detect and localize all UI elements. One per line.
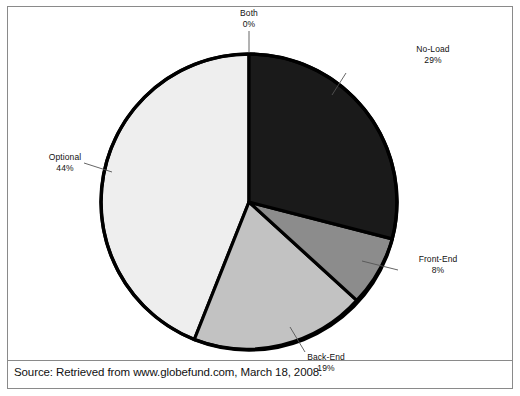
pie-label-front-end-name: Front-End	[398, 254, 478, 265]
pie-label-front-end-value: 8%	[398, 265, 478, 276]
pie-label-front-end: Front-End 8%	[398, 254, 478, 276]
pie-label-optional: Optional 44%	[28, 152, 102, 174]
pie-label-both-value: 0%	[212, 19, 286, 30]
pie-label-both-name: Both	[212, 8, 286, 19]
pie-label-both: Both 0%	[212, 8, 286, 30]
pie-label-no-load: No-Load 29%	[396, 44, 470, 66]
source-divider	[8, 360, 512, 361]
pie-chart-area: Both 0% No-Load 29% Front-End 8% Back-En…	[0, 0, 520, 396]
pie-label-optional-value: 44%	[28, 163, 102, 174]
source-note: Source: Retrieved from www.globefund.com…	[14, 366, 322, 378]
pie-label-no-load-value: 29%	[396, 55, 470, 66]
pie-label-back-end-name: Back-End	[286, 352, 366, 363]
pie-chart-figure: Both 0% No-Load 29% Front-End 8% Back-En…	[0, 0, 520, 396]
pie-label-no-load-name: No-Load	[396, 44, 470, 55]
pie-label-optional-name: Optional	[28, 152, 102, 163]
